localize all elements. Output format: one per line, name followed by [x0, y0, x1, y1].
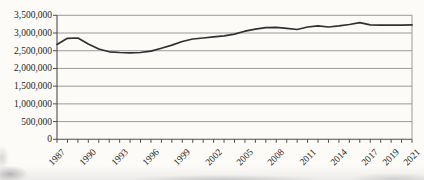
y-axis-label: 3,500,000: [2, 10, 52, 20]
data-line: [57, 23, 412, 53]
chart-container: 0500,0001,000,0001,500,0002,000,0002,500…: [0, 0, 424, 180]
y-axis-label: 3,000,000: [2, 28, 52, 38]
y-axis-label: 2,000,000: [2, 63, 52, 73]
y-axis-label: 2,500,000: [2, 46, 52, 56]
y-axis-label: 1,500,000: [2, 81, 52, 91]
y-axis-label: 0: [2, 134, 52, 144]
y-axis-label: 1,000,000: [2, 99, 52, 109]
y-axis-label: 500,000: [2, 117, 52, 127]
